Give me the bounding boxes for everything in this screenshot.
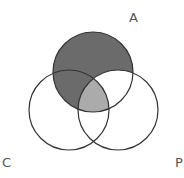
label-c: C [2,155,11,170]
label-p: P [175,155,183,170]
venn-diagram: A C P [0,0,184,178]
label-a: A [129,10,138,25]
